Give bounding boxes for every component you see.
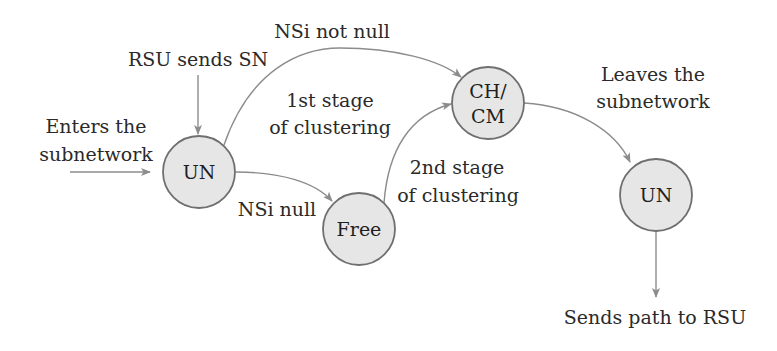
node-label: Free bbox=[337, 218, 382, 240]
node-un-end: UN bbox=[620, 159, 692, 231]
label-enters-line2: subnetwork bbox=[39, 143, 153, 165]
node-label-line1: CH/ bbox=[469, 80, 507, 102]
label-stage1-line2: of clustering bbox=[269, 116, 391, 138]
label-stage2-line2: of clustering bbox=[397, 184, 519, 206]
node-label-line2: CM bbox=[471, 105, 505, 127]
label-sends-path: Sends path to RSU bbox=[564, 306, 746, 328]
edge-nsi-null bbox=[236, 172, 332, 201]
label-stage1-line1: 1st stage bbox=[286, 89, 374, 111]
node-label: UN bbox=[183, 161, 216, 183]
label-leaves-line2: subnetwork bbox=[596, 90, 710, 112]
label-rsu-sends-sn: RSU sends SN bbox=[128, 48, 268, 70]
node-ch-cm: CH/ CM bbox=[452, 67, 524, 139]
label-leaves-line1: Leaves the bbox=[601, 63, 705, 85]
arrow-icon bbox=[236, 172, 332, 201]
label-nsi-not-null: NSi not null bbox=[274, 20, 390, 42]
label-nsi-null: NSi null bbox=[238, 198, 316, 220]
node-un-start: UN bbox=[163, 136, 235, 208]
label-stage2-line1: 2nd stage bbox=[410, 156, 505, 178]
node-free: Free bbox=[323, 193, 395, 265]
node-label: UN bbox=[640, 184, 673, 206]
state-diagram: UN Free CH/ CM UN RSU sends SN Enters th… bbox=[0, 0, 777, 351]
label-enters-line1: Enters the bbox=[46, 115, 147, 137]
